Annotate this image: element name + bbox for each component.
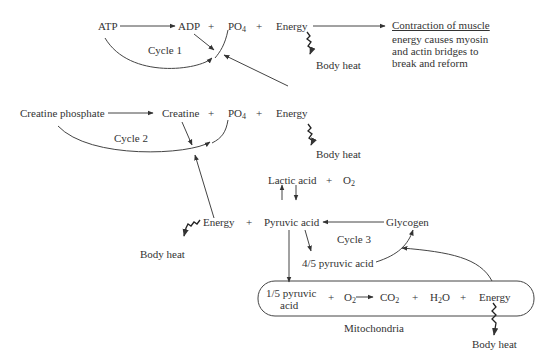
plus-sign: + [460, 291, 466, 303]
o2-subscript: 2 [351, 179, 355, 188]
h2o-h: H [430, 291, 438, 303]
mitochondria-label: Mitochondria [344, 322, 404, 334]
contraction-line-3: break and reform [392, 57, 468, 69]
plus-sign: + [246, 216, 252, 228]
creatine-label: Creatine [162, 107, 199, 119]
o2-subscript: 2 [352, 296, 356, 305]
po4-text: PO [228, 20, 242, 32]
po4-label: PO4 [228, 20, 246, 32]
o2-label: O2 [344, 291, 356, 303]
body-heat-label: Body heat [316, 148, 361, 160]
po4-text: PO [228, 107, 242, 119]
plus-sign: + [256, 107, 262, 119]
energy-cycles-diagram: ATP ADP + PO4 + Energy Cycle 1 Body heat… [0, 0, 536, 361]
atp-label: ATP [98, 20, 118, 32]
body-heat-label: Body heat [316, 59, 361, 71]
plus-sign: + [208, 107, 214, 119]
h2o-label: H2O [430, 291, 450, 303]
contraction-line-1: energy causes myosin [392, 33, 488, 45]
plus-sign: + [326, 174, 332, 186]
o2-text: O [344, 291, 352, 303]
energy-label: Energy [276, 107, 308, 119]
cycle-3-label: Cycle 3 [337, 233, 371, 245]
contraction-line-2: and actin bridges to [392, 45, 478, 57]
one-fifth-pyruvic-label: 1/5 pyruvic [266, 287, 316, 299]
cycle-2-label: Cycle 2 [114, 132, 148, 144]
po4-subscript: 4 [242, 25, 246, 34]
energy-label: Energy [276, 20, 308, 32]
one-fifth-acid-label: acid [280, 299, 298, 311]
po4-subscript: 4 [242, 112, 246, 121]
o2-label: O2 [343, 174, 355, 186]
plus-sign: + [412, 291, 418, 303]
o2-text: O [343, 174, 351, 186]
co2-label: CO2 [380, 291, 399, 303]
energy-label: Energy [479, 291, 511, 303]
cycle-1-label: Cycle 1 [148, 44, 182, 56]
plus-sign: + [256, 20, 262, 32]
glycogen-label: Glycogen [386, 216, 429, 228]
co2-text: CO [380, 291, 395, 303]
energy-label: Energy [203, 216, 235, 228]
h2o-o: O [442, 291, 450, 303]
po4-label: PO4 [228, 107, 246, 119]
pyruvic-acid-label: Pyruvic acid [264, 216, 319, 228]
lactic-acid-label: Lactic acid [268, 174, 317, 186]
body-heat-label: Body heat [140, 248, 185, 260]
plus-sign: + [328, 291, 334, 303]
plus-sign: + [208, 20, 214, 32]
adp-label: ADP [178, 20, 200, 32]
creatine-phosphate-label: Creatine phosphate [20, 107, 105, 119]
body-heat-label: Body heat [472, 338, 517, 350]
co2-subscript: 2 [395, 296, 399, 305]
contraction-title: Contraction of muscle [392, 19, 490, 31]
four-fifths-pyruvic-label: 4/5 pyruvic acid [302, 257, 373, 269]
